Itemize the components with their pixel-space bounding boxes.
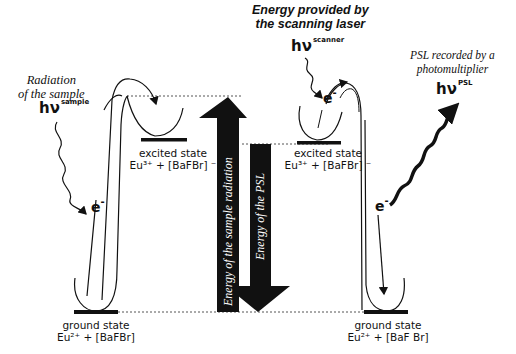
up-arrow-text: Energy of the sample radiation xyxy=(221,157,236,306)
right-excited-well xyxy=(299,106,342,140)
right-ground-state-label: ground state Eu²⁺ + [BaF Br] xyxy=(341,319,435,343)
dotted-level-lines xyxy=(118,96,372,312)
left-ground-state-formula: Eu²⁺ + [BaFBr] xyxy=(52,331,140,343)
right-excited-state-label: excited state Eu³⁺ + [BaFBr] ⁻ xyxy=(283,147,373,171)
sample-photon-wave xyxy=(55,122,86,214)
electron-right-bottom-sup: - xyxy=(385,195,389,206)
electron-right-top-sup: - xyxy=(333,87,337,98)
scanner-energy-label: Energy provided by the scanning laser xyxy=(252,3,369,31)
psl-recorded-line-1: PSL recorded by a xyxy=(410,48,495,62)
hv-sample-label: hνsample xyxy=(39,99,89,117)
electron-left: e- xyxy=(91,199,105,215)
electron-right-top: e- xyxy=(323,90,337,106)
electron-drop-line xyxy=(378,215,384,294)
hv-scanner-sup: scanner xyxy=(313,36,344,44)
right-excited-level-bar xyxy=(297,141,341,145)
hv-psl-label: hνPSL xyxy=(436,80,473,98)
left-excited-state-name: excited state xyxy=(128,147,218,159)
hv-psl-base: hν xyxy=(436,80,457,98)
right-excited-state-formula: Eu³⁺ + [BaFBr] ⁻ xyxy=(283,159,373,171)
electron-right-bottom-base: e xyxy=(375,198,385,214)
left-excited-level-bar xyxy=(141,138,187,142)
psl-recorded-line-2: photomultiplier xyxy=(410,62,495,76)
left-ground-level-bar xyxy=(74,310,118,314)
electron-left-sup: - xyxy=(101,196,105,207)
right-ground-state-formula: Eu²⁺ + [BaF Br] xyxy=(341,331,435,343)
scanner-photon-wave xyxy=(305,58,322,98)
hv-psl-sup: PSL xyxy=(458,79,473,87)
right-release-arc-outer xyxy=(326,83,362,310)
psl-photon-wave xyxy=(390,110,452,205)
right-ground-state-name: ground state xyxy=(341,319,435,331)
hv-sample-sup: sample xyxy=(61,98,89,106)
down-arrow-text: Energy of the PSL xyxy=(253,173,268,260)
left-excited-state-label: excited state Eu³⁺ + [BaFBr] ⁻ xyxy=(128,147,218,171)
left-excited-state-formula: Eu³⁺ + [BaFBr] ⁻ xyxy=(128,159,218,171)
electron-right-top-base: e xyxy=(323,90,333,106)
left-ground-state-name: ground state xyxy=(52,319,140,331)
scanner-energy-line-1: Energy provided by xyxy=(252,3,369,17)
left-ground-state-label: ground state Eu²⁺ + [BaFBr] xyxy=(52,319,140,343)
hv-scanner-base: hν xyxy=(291,37,312,55)
psl-energy-diagram: Radiation of the sample hνsample Energy … xyxy=(0,0,516,354)
electron-right-bottom: e- xyxy=(375,198,389,214)
sample-radiation-line-1: Radiation xyxy=(18,73,85,87)
right-ground-level-bar xyxy=(364,310,408,314)
right-release-arc-inner xyxy=(340,89,359,112)
scanner-energy-line-2: the scanning laser xyxy=(252,17,369,31)
left-excitation-arc xyxy=(102,79,156,300)
psl-recorded-label: PSL recorded by a photomultiplier xyxy=(410,48,495,76)
hv-sample-base: hν xyxy=(39,99,60,117)
right-excited-state-name: excited state xyxy=(283,147,373,159)
electron-left-base: e xyxy=(91,199,101,215)
sample-radiation-label: Radiation of the sample xyxy=(18,73,85,101)
hv-scanner-label: hνscanner xyxy=(291,37,344,55)
